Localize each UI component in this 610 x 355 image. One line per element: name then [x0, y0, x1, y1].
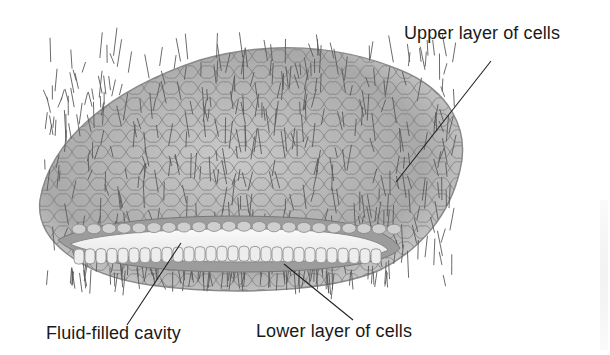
- organism-illustration: [0, 0, 610, 355]
- organism-diagram: Upper layer of cells Fluid-filled cavity…: [0, 0, 610, 355]
- label-upper-layer-of-cells: Upper layer of cells: [404, 23, 560, 44]
- label-lower-layer-of-cells: Lower layer of cells: [256, 321, 412, 342]
- scan-edge: [600, 200, 608, 350]
- label-fluid-filled-cavity: Fluid-filled cavity: [46, 323, 181, 344]
